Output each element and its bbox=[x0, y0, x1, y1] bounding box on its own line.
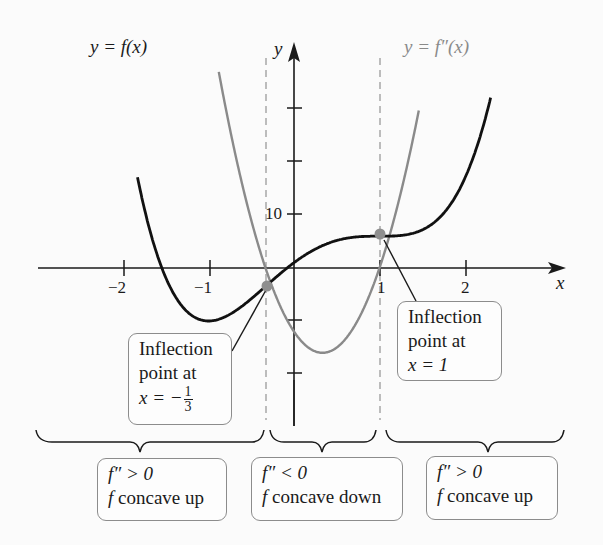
callout-1-eq: x = − bbox=[139, 387, 183, 408]
callout-2-line-3: x = 1 bbox=[408, 353, 493, 377]
fraction-denominator: 3 bbox=[184, 400, 193, 414]
f-curve-label-text: y = f(x) bbox=[90, 36, 147, 57]
y-axis-label: y bbox=[274, 38, 282, 60]
interval-box-concave-up-right: f″ > 0 f concave up bbox=[426, 456, 558, 520]
leader-line-inflection-2 bbox=[384, 240, 416, 301]
interval-1-description: f concave up bbox=[108, 486, 218, 510]
fraction-one-third: 13 bbox=[184, 385, 193, 414]
inflection-point-2 bbox=[375, 229, 386, 240]
y-tick-label-10: 10 bbox=[265, 205, 282, 223]
callout-2-line-1: Inflection bbox=[408, 305, 493, 329]
f-curve bbox=[138, 98, 491, 321]
f-double-prime-curve-label: y = f″(x) bbox=[404, 36, 469, 58]
fraction-numerator: 1 bbox=[184, 385, 193, 400]
interval-box-concave-down: f″ < 0 f concave down bbox=[251, 457, 403, 521]
brace-interval-2 bbox=[270, 430, 376, 452]
inflection-point-1 bbox=[262, 281, 273, 292]
callout-1-line-3: x = −13 bbox=[139, 385, 223, 414]
x-axis-label: x bbox=[556, 272, 564, 294]
brace-interval-3 bbox=[386, 430, 564, 452]
inflection-callout-2: Inflection point at x = 1 bbox=[397, 301, 502, 381]
interval-1-condition: f″ > 0 bbox=[108, 462, 218, 486]
interval-3-text: concave up bbox=[442, 485, 533, 506]
f-double-prime-curve bbox=[219, 72, 419, 353]
x-tick-label-neg1: −1 bbox=[194, 279, 212, 297]
interval-2-text: concave down bbox=[267, 486, 381, 507]
interval-2-condition: f″ < 0 bbox=[262, 461, 394, 485]
callout-1-line-1: Inflection bbox=[139, 337, 223, 361]
callout-1-line-2: point at bbox=[139, 361, 223, 385]
inflection-callout-1: Inflection point at x = −13 bbox=[128, 333, 232, 425]
f-curve-label: y = f(x) bbox=[90, 36, 147, 58]
x-tick-label-neg2: −2 bbox=[108, 279, 126, 297]
interval-3-description: f concave up bbox=[437, 484, 549, 508]
f-double-prime-label-text: y = f″(x) bbox=[404, 36, 469, 57]
x-tick-label-2: 2 bbox=[461, 279, 470, 297]
interval-box-concave-up-left: f″ > 0 f concave up bbox=[97, 458, 227, 521]
callout-2-line-2: point at bbox=[408, 329, 493, 353]
interval-2-description: f concave down bbox=[262, 485, 394, 509]
interval-1-text: concave up bbox=[113, 487, 204, 508]
brace-interval-1 bbox=[36, 430, 264, 452]
interval-3-condition: f″ > 0 bbox=[437, 460, 549, 484]
x-tick-label-1: 1 bbox=[377, 279, 386, 297]
